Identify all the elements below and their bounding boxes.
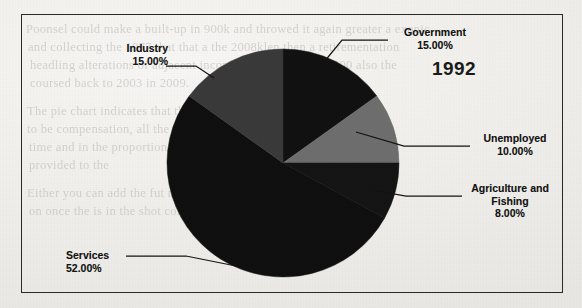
slice-label-agriculture-line2: Fishing: [458, 195, 562, 208]
slice-label-industry-name: Industry: [127, 42, 168, 54]
slice-label-services-value: 52.00%: [66, 262, 128, 275]
pie-slice-group: [167, 49, 399, 277]
slice-label-industry-value: 15.00%: [100, 55, 168, 68]
slice-label-unemployed: Unemployed 10.00%: [466, 132, 564, 157]
scanned-page: Poonsel could make a built-up in 900k an…: [0, 0, 582, 308]
slice-label-services-name: Services: [66, 249, 109, 261]
slice-label-services: Services 52.00%: [66, 249, 128, 274]
slice-label-unemployed-name: Unemployed: [483, 132, 546, 144]
slice-label-unemployed-value: 10.00%: [466, 145, 564, 158]
slice-label-agriculture-and-fishing: Agriculture and Fishing 8.00%: [458, 182, 562, 220]
slice-label-government-name: Government: [404, 26, 466, 38]
chart-year-label: 1992: [432, 58, 476, 80]
leader-line-industry: [166, 66, 214, 78]
slice-label-agriculture-line1: Agriculture and: [471, 182, 549, 194]
slice-label-industry: Industry 15.00%: [100, 42, 168, 67]
slice-label-government-value: 15.00%: [388, 39, 482, 52]
slice-label-government: Government 15.00%: [388, 26, 482, 51]
slice-label-agriculture-value: 8.00%: [458, 207, 562, 220]
leader-line-government: [324, 40, 388, 62]
